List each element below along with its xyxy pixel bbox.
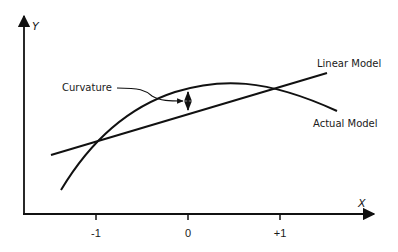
linear-model-label: Linear Model: [317, 58, 381, 69]
y-axis: Y: [24, 16, 40, 214]
x-axis: X -1 0 +1: [23, 197, 374, 239]
actual-model-curve: [61, 83, 337, 190]
curvature-pointer-arrow-icon: [117, 88, 183, 101]
diagram-canvas: Y X -1 0 +1 Curvature Linear Model Actua…: [0, 0, 398, 252]
x-tick-label: 0: [185, 227, 191, 239]
actual-model-label: Actual Model: [313, 118, 378, 129]
x-axis-label: X: [357, 197, 366, 210]
curvature-label: Curvature: [62, 82, 112, 93]
y-axis-label: Y: [32, 20, 40, 33]
x-tick-label: -1: [91, 227, 101, 239]
x-tick-label: +1: [274, 227, 287, 239]
